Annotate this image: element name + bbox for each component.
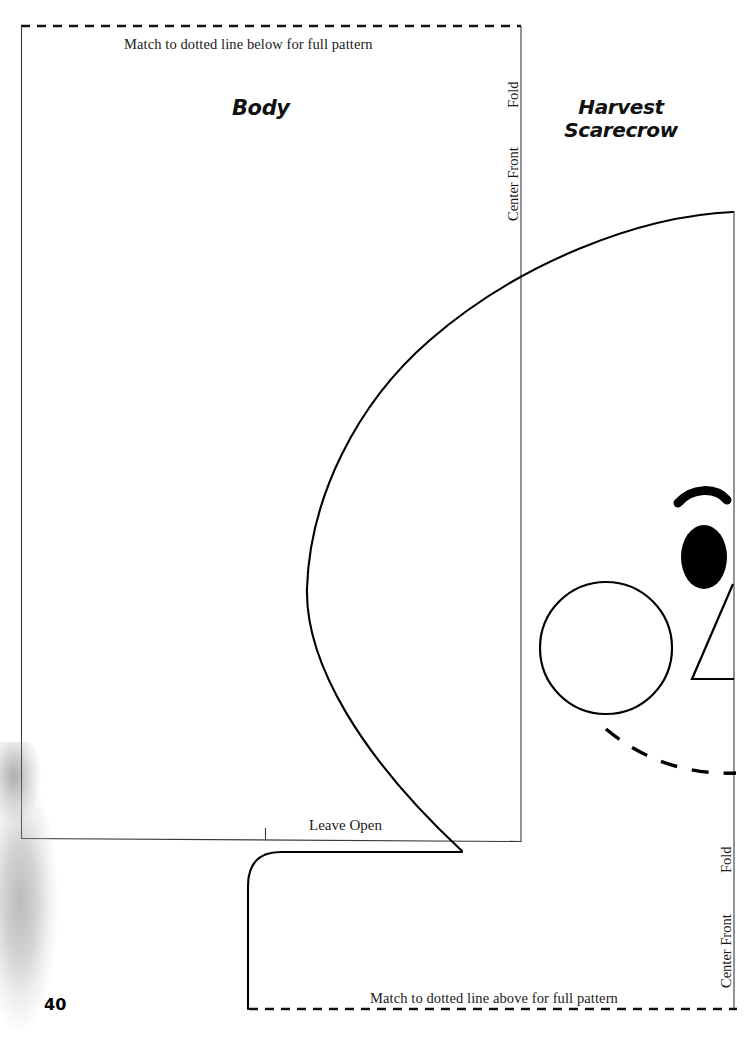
mouth-dashed-curve (606, 729, 736, 773)
project-title-line2: Scarecrow (556, 119, 686, 142)
cut-line-base-piece (248, 852, 462, 1009)
center-front-label-bottom: Center Front (719, 914, 734, 988)
piece-title-body: Body (232, 98, 290, 119)
center-front-label-top: Center Front (506, 147, 521, 221)
eye-icon (681, 525, 727, 589)
project-title-line1: Harvest (556, 96, 686, 119)
fold-label-top: Fold (506, 81, 521, 108)
nose-icon (692, 584, 734, 679)
cut-line-head-curve (307, 212, 733, 851)
match-note-bottom: Match to dotted line above for full patt… (370, 991, 618, 1006)
leave-open-label: Leave Open (309, 818, 382, 833)
pattern-drawing (0, 0, 749, 1044)
pattern-page: Match to dotted line below for full patt… (0, 0, 749, 1044)
match-note-top: Match to dotted line below for full patt… (124, 37, 373, 52)
leave-open-edge (21, 839, 521, 842)
project-title: Harvest Scarecrow (556, 96, 686, 142)
cheek-circle (540, 582, 672, 714)
page-number: 40 (44, 995, 66, 1014)
fold-label-bottom: Fold (719, 846, 734, 873)
eyebrow-icon (678, 491, 727, 503)
